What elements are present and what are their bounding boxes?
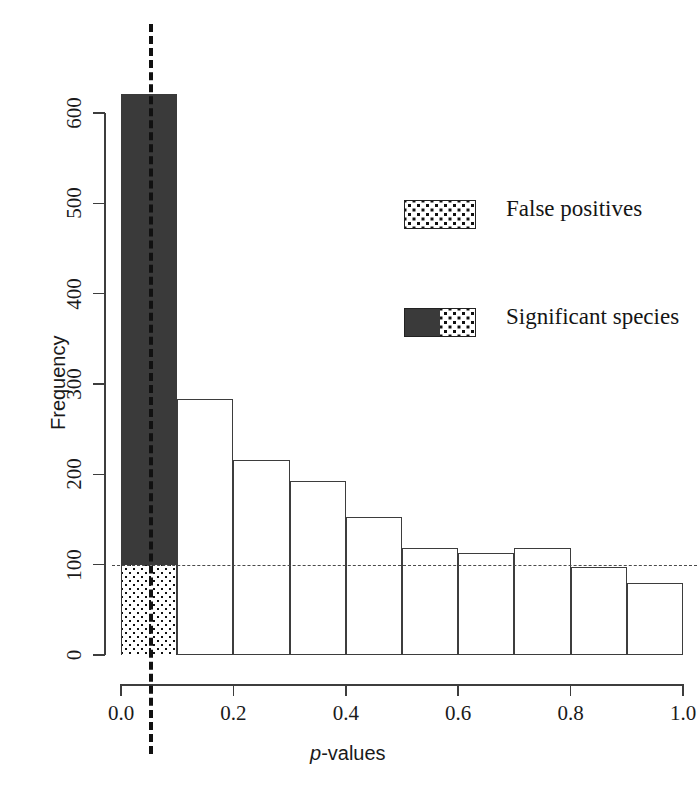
histogram-bar <box>402 548 458 655</box>
y-axis-tick-label: 400 <box>62 278 87 310</box>
x-axis-label-rest: -values <box>321 742 385 764</box>
y-axis-tick-label: 100 <box>62 549 87 581</box>
x-axis-tick-label: 0.0 <box>108 701 134 726</box>
x-axis-tick-label: 1.0 <box>670 701 696 726</box>
y-axis-tick <box>93 564 105 566</box>
x-axis-tick-label: 0.6 <box>445 701 471 726</box>
legend: False positives Significant species <box>404 196 684 362</box>
x-axis-tick <box>233 684 235 696</box>
y-axis-tick <box>93 203 105 205</box>
significance-threshold-line <box>149 24 153 754</box>
plot-area <box>121 90 683 655</box>
legend-entry-false-positives: False positives <box>404 196 684 254</box>
y-axis-tick <box>93 383 105 385</box>
legend-entry-significant-species: Significant species <box>404 304 684 362</box>
y-axis-tick-label: 300 <box>62 368 87 400</box>
x-axis-tick <box>457 684 459 696</box>
x-axis-tick <box>120 684 122 696</box>
histogram-bar <box>346 517 402 655</box>
x-axis-label-italic: p <box>310 742 321 764</box>
x-axis-tick <box>682 684 684 696</box>
expected-false-positive-line <box>112 565 697 566</box>
histogram-bar <box>233 460 289 655</box>
y-axis-tick <box>93 112 105 114</box>
x-axis-line <box>121 684 683 686</box>
x-axis-tick-label: 0.4 <box>333 701 359 726</box>
y-axis-tick-label: 600 <box>62 97 87 129</box>
legend-label-significant-species: Significant species <box>506 304 679 330</box>
y-axis-tick <box>93 474 105 476</box>
y-axis-tick-label: 500 <box>62 188 87 220</box>
legend-swatch-dark-half <box>405 309 440 336</box>
y-axis-tick <box>93 293 105 295</box>
x-axis-tick <box>570 684 572 696</box>
y-axis-tick-label: 0 <box>62 650 87 661</box>
histogram-bar <box>571 567 627 655</box>
x-axis-tick-label: 0.2 <box>220 701 246 726</box>
y-axis-tick-label: 200 <box>62 459 87 491</box>
histogram-bar <box>177 399 233 655</box>
x-axis-tick <box>345 684 347 696</box>
y-axis-tick <box>93 654 105 656</box>
legend-swatch-dotted-icon <box>404 200 476 229</box>
histogram-bar <box>627 583 683 655</box>
legend-label-false-positives: False positives <box>506 196 642 222</box>
legend-swatch-half-dark-icon <box>404 308 476 337</box>
x-axis-tick-label: 0.8 <box>557 701 583 726</box>
histogram-bar <box>458 553 514 655</box>
histogram-bar <box>290 481 346 655</box>
x-axis-label: p-values <box>310 742 386 765</box>
